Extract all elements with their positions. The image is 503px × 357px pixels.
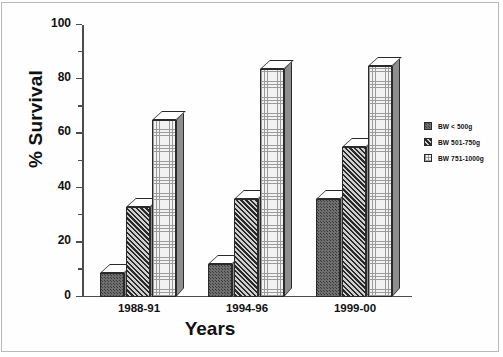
bar — [316, 199, 340, 297]
y-tick-label: 60 — [58, 124, 71, 138]
y-tick-80: 80 — [76, 78, 82, 80]
y-minor-tick-30 — [78, 214, 82, 216]
legend-item: BW 751-1000g — [424, 154, 500, 162]
y-tick-label: 100 — [51, 16, 71, 30]
bar-front-face — [234, 199, 258, 297]
y-tick-100: 100 — [76, 24, 82, 26]
bar-front-face — [260, 69, 284, 297]
y-minor-tick-90 — [78, 51, 82, 53]
bar-front-face — [342, 147, 366, 297]
figure-canvas: % Survival 020406080100 1988-911994-9619… — [0, 0, 503, 357]
y-minor-tick-10 — [78, 268, 82, 270]
y-tick-label: 20 — [58, 233, 71, 247]
y-tick-label: 0 — [64, 288, 71, 302]
bar — [100, 273, 124, 297]
bar-front-face — [368, 66, 392, 297]
y-tick-label: 40 — [58, 179, 71, 193]
y-axis-line — [82, 25, 84, 297]
chart-legend: BW < 500gBW 501-750gBW 751-1000g — [424, 122, 500, 170]
bar-front-face — [126, 207, 150, 297]
bar-side-face — [392, 57, 400, 297]
legend-label: BW 501-750g — [438, 139, 480, 146]
legend-label: BW 751-1000g — [438, 155, 484, 162]
bar — [126, 207, 150, 297]
y-tick-40: 40 — [76, 187, 82, 189]
legend-item: BW 501-750g — [424, 138, 500, 146]
bar-side-face — [284, 60, 292, 297]
bar-group: 1988-91 — [100, 25, 188, 297]
y-minor-tick-70 — [78, 105, 82, 107]
plot-area: 020406080100 1988-911994-961999-00 — [82, 25, 402, 297]
x-tick-label: 1999-00 — [334, 302, 376, 314]
bar — [234, 199, 258, 297]
bar-side-face — [176, 111, 184, 297]
bar — [260, 69, 284, 297]
x-tick-label: 1988-91 — [118, 302, 160, 314]
bar-front-face — [152, 120, 176, 297]
bar-front-face — [100, 273, 124, 297]
x-tick-label: 1994-96 — [226, 302, 268, 314]
legend-swatch — [424, 154, 432, 162]
legend-swatch — [424, 138, 432, 146]
legend-swatch — [424, 122, 432, 130]
legend-item: BW < 500g — [424, 122, 500, 130]
bar — [152, 120, 176, 297]
bar — [208, 264, 232, 297]
bar — [368, 66, 392, 297]
bar-group: 1994-96 — [208, 25, 296, 297]
y-tick-60: 60 — [76, 132, 82, 134]
y-axis-title: % Survival — [25, 39, 47, 199]
bar-front-face — [316, 199, 340, 297]
y-tick-label: 80 — [58, 70, 71, 84]
y-tick-20: 20 — [76, 241, 82, 243]
bar — [342, 147, 366, 297]
x-axis-title: Years — [0, 318, 420, 340]
legend-label: BW < 500g — [438, 123, 472, 130]
bar-front-face — [208, 264, 232, 297]
y-tick-0: 0 — [76, 296, 82, 298]
y-minor-tick-50 — [78, 160, 82, 162]
bar-group: 1999-00 — [316, 25, 404, 297]
